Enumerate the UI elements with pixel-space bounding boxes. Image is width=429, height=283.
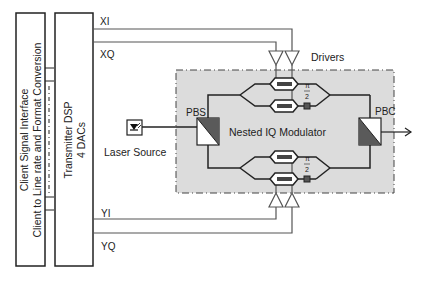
interface-connectors xyxy=(45,68,54,210)
dsp-line1: Transmitter DSP xyxy=(62,101,74,178)
xq-label: XQ xyxy=(100,49,115,60)
driver-xq-icon xyxy=(269,51,283,65)
dsp-line2: 4 DACs xyxy=(75,122,87,158)
phase-top-den: 2 xyxy=(305,93,309,100)
phase-bottom-den: 2 xyxy=(305,166,309,173)
yi-label: YI xyxy=(101,208,110,219)
yq-label: YQ xyxy=(101,241,116,252)
iq-transmitter-diagram: Client Signal Interface Client to Line r… xyxy=(0,0,429,283)
client-signal-interface-block: Client Signal Interface Client to Line r… xyxy=(16,13,45,266)
laser-source-label: Laser Source xyxy=(104,146,167,158)
drivers-label: Drivers xyxy=(311,51,344,63)
pbc-label: PBC xyxy=(375,106,396,117)
driver-yq-icon xyxy=(285,193,299,207)
client-interface-line2: Client to Line rate and Format Conversio… xyxy=(31,42,43,237)
driver-yi-icon xyxy=(269,193,283,207)
phase-bottom-num: π xyxy=(305,155,310,162)
client-interface-line1: Client Signal Interface xyxy=(18,88,30,191)
yi-line xyxy=(93,207,276,219)
phase-top-num: π xyxy=(305,82,310,89)
pbs-splitter xyxy=(197,118,219,145)
yq-line xyxy=(93,207,292,233)
driver-xi-icon xyxy=(285,51,299,65)
nested-iq-modulator-label: Nested IQ Modulator xyxy=(229,126,326,138)
pbc-combiner xyxy=(359,118,381,145)
xq-line xyxy=(93,42,276,51)
transmitter-dsp-block: Transmitter DSP 4 DACs xyxy=(55,13,93,266)
xi-line xyxy=(93,29,292,51)
pbs-label: PBS xyxy=(186,107,206,118)
xi-label: XI xyxy=(100,16,109,27)
